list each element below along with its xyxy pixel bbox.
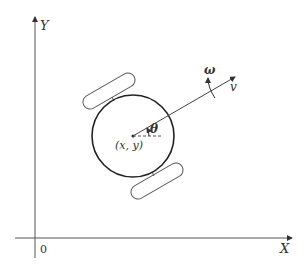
omega-arrow <box>208 78 215 98</box>
bottom-wheel <box>128 160 185 201</box>
center-label: (x, y) <box>115 139 143 152</box>
robot-kinematics-diagram: Y X 0 θ (x, y) v ω <box>0 0 306 267</box>
theta-arc <box>147 128 149 136</box>
x-axis-label: X <box>279 241 290 256</box>
top-wheel <box>80 70 137 111</box>
y-axis-label: Y <box>40 18 50 33</box>
velocity-vector <box>133 77 235 136</box>
theta-label: θ <box>150 122 158 136</box>
velocity-label: v <box>230 80 237 94</box>
omega-label: ω <box>204 63 216 77</box>
origin-label: 0 <box>40 243 47 256</box>
